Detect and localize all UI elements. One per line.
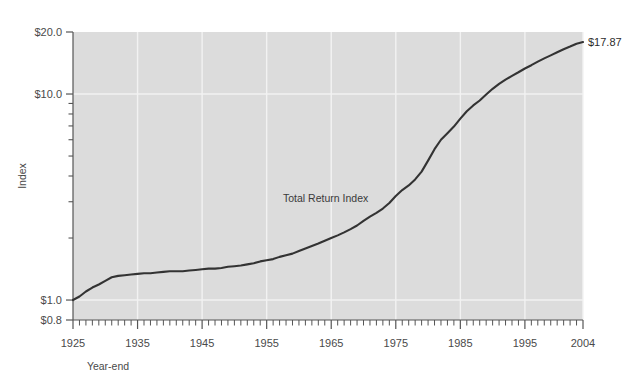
- series-annotation-label: Total Return Index: [283, 192, 369, 204]
- total-return-index-chart: $20.0$10.0$1.0$0.8 192519351945195519651…: [0, 0, 633, 388]
- y-axis-tick-label: $0.8: [41, 314, 62, 326]
- x-axis-tick-label: 1945: [190, 337, 214, 349]
- y-axis-tick-label: $10.0: [34, 88, 62, 100]
- x-axis-tick-label: 1955: [254, 337, 278, 349]
- chart-container: $20.0$10.0$1.0$0.8 192519351945195519651…: [0, 0, 633, 388]
- series-end-value-label: $17.87: [588, 36, 622, 48]
- x-axis-tick-label: 1985: [448, 337, 472, 349]
- x-axis-title: Year-end: [87, 360, 129, 372]
- x-axis-tick-label: 1925: [61, 337, 85, 349]
- y-axis-tick-label: $1.0: [41, 294, 62, 306]
- plot-area-background: [73, 32, 583, 320]
- y-axis-tick-label: $20.0: [34, 26, 62, 38]
- plot-background-rect: [73, 32, 583, 320]
- x-axis-tick-label: 1975: [384, 337, 408, 349]
- x-axis-tick-label: 1965: [319, 337, 343, 349]
- y-axis-title: Index: [16, 162, 28, 188]
- x-axis-tick-label: 1935: [125, 337, 149, 349]
- x-axis-tick-label: 2004: [571, 337, 595, 349]
- x-axis-tick-label: 1995: [513, 337, 537, 349]
